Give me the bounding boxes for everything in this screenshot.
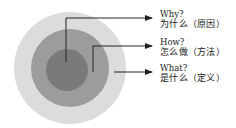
why-label-zh: 为什么（原因） bbox=[160, 19, 225, 29]
why-label-en: Why? bbox=[160, 9, 225, 19]
what-label: What? 是什么（定义） bbox=[160, 63, 225, 83]
what-label-zh: 是什么（定义） bbox=[160, 73, 225, 83]
what-label-en: What? bbox=[160, 63, 225, 73]
how-label-zh: 怎么做（方法） bbox=[160, 47, 225, 57]
how-label: How? 怎么做（方法） bbox=[160, 37, 225, 57]
why-label: Why? 为什么（原因） bbox=[160, 9, 225, 29]
how-label-en: How? bbox=[160, 37, 225, 47]
inner-circle-why bbox=[46, 49, 88, 91]
